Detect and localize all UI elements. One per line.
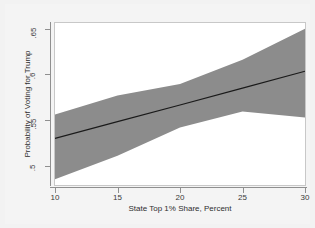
x-axis-line <box>50 187 307 188</box>
y-axis-tick <box>45 166 50 167</box>
y-axis-tick <box>45 120 50 121</box>
x-axis-tick-label: 25 <box>238 193 247 202</box>
x-axis-tick-label: 20 <box>176 193 185 202</box>
chart-figure: .5.55.6.65 1015202530 Probability of Vot… <box>0 0 315 228</box>
plot-area <box>54 22 306 186</box>
chart-plot-svg <box>55 23 305 185</box>
x-axis-title: State Top 1% Share, Percent <box>54 204 306 213</box>
y-axis-title: Probability of Voting for Trump <box>23 22 32 186</box>
confidence-band <box>55 29 305 180</box>
x-axis-tick-label: 10 <box>51 193 60 202</box>
y-axis-tick <box>45 74 50 75</box>
graph-region: .5.55.6.65 1015202530 Probability of Vot… <box>5 4 310 224</box>
confidence-band-area <box>55 29 305 180</box>
x-axis-tick-label: 30 <box>301 193 310 202</box>
y-axis-line <box>50 22 51 186</box>
x-axis-tick-label: 15 <box>113 193 122 202</box>
y-axis-tick <box>45 29 50 30</box>
